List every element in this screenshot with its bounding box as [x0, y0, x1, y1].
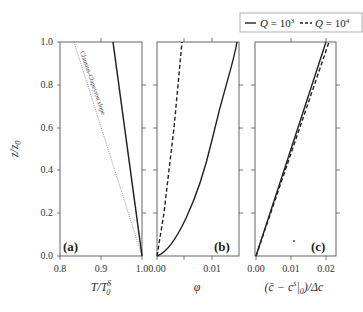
series-q3-line-b: [157, 42, 237, 256]
svg-text:0.2: 0.2: [41, 207, 54, 218]
clausius-clapeyron-annotation: Clausius-Clapeyron slope: [79, 50, 107, 116]
x-axis-label-b: φ: [194, 280, 201, 294]
y-tick-labels: 0.0 0.2 0.4 0.6 0.8 1.0: [41, 36, 54, 261]
svg-text:0.9: 0.9: [95, 263, 108, 274]
clausius-clapeyron-line: [74, 42, 142, 256]
x-axis-label-c: (c̄ − cs|0)/Δc: [265, 279, 325, 296]
panel-a: Clausius-Clapeyron slope (a) 0.8 0.9 1.0…: [54, 38, 149, 297]
svg-text:0.00: 0.00: [247, 263, 265, 274]
legend-label-q4: Q = 104: [315, 17, 350, 29]
panel-c-tag: (c): [311, 239, 325, 254]
svg-text:0.01: 0.01: [282, 263, 300, 274]
panel-b-frame: [157, 42, 239, 256]
series-q3-line-c: [256, 42, 326, 256]
legend-label-q3: Q = 103: [260, 17, 295, 29]
svg-text:1.0: 1.0: [41, 36, 54, 47]
svg-text:0.02: 0.02: [317, 263, 335, 274]
svg-text:1.0: 1.0: [136, 263, 149, 274]
svg-text:0.8: 0.8: [41, 79, 54, 90]
svg-text:0.8: 0.8: [54, 263, 67, 274]
svg-text:0.0: 0.0: [41, 250, 54, 261]
panel-a-frame: [60, 42, 142, 256]
svg-text:0.00: 0.00: [148, 263, 166, 274]
series-q4-line-b: [157, 42, 182, 256]
stray-dot: [293, 240, 295, 242]
svg-text:0.01: 0.01: [203, 263, 221, 274]
x-axis-label-a: T/TS0: [91, 279, 112, 297]
svg-text:0.4: 0.4: [41, 164, 54, 175]
legend: Q = 103 Q = 104: [240, 13, 362, 32]
panel-c: (c) 0.00 0.01 0.02 (c̄ − cs|0)/Δc: [247, 38, 340, 296]
svg-text:0.6: 0.6: [41, 122, 54, 133]
panel-b-tag: (b): [214, 239, 230, 254]
figure-canvas: Q = 103 Q = 104 z/z0 0.0 0.2 0.4 0.6 0.8…: [0, 0, 363, 312]
svg-text:z/z0: z/z0: [7, 141, 23, 159]
y-axis-label: z/z0: [7, 141, 23, 159]
series-q3-line-a: [113, 42, 142, 256]
panel-a-tag: (a): [63, 239, 78, 254]
panel-b: (b) 0.00 0.01 φ: [148, 38, 243, 294]
